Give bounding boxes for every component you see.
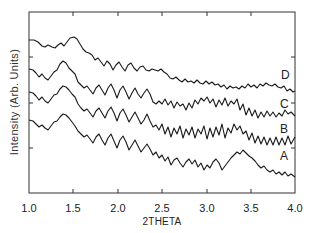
x-tick-label: 3.0 <box>199 202 214 214</box>
series-label-d: D <box>281 68 290 82</box>
curve-B <box>29 86 295 145</box>
x-tick-label: 3.5 <box>243 202 258 214</box>
y-axis-label: Intensity (Arb. Units) <box>8 49 20 155</box>
x-tick-label: 4.0 <box>287 202 302 214</box>
x-ticks <box>73 12 251 193</box>
curve-D <box>29 37 295 92</box>
series-label-c: C <box>280 97 289 111</box>
reflectivity-chart <box>0 0 309 233</box>
x-tick-label: 1.5 <box>65 202 80 214</box>
series-label-b: B <box>280 122 288 136</box>
x-tick-label: 2.5 <box>154 202 169 214</box>
x-tick-label: 2.0 <box>110 202 125 214</box>
x-tick-label: 1.0 <box>21 202 36 214</box>
x-axis-label: 2THETA <box>143 216 182 227</box>
series-label-a: A <box>280 149 288 163</box>
